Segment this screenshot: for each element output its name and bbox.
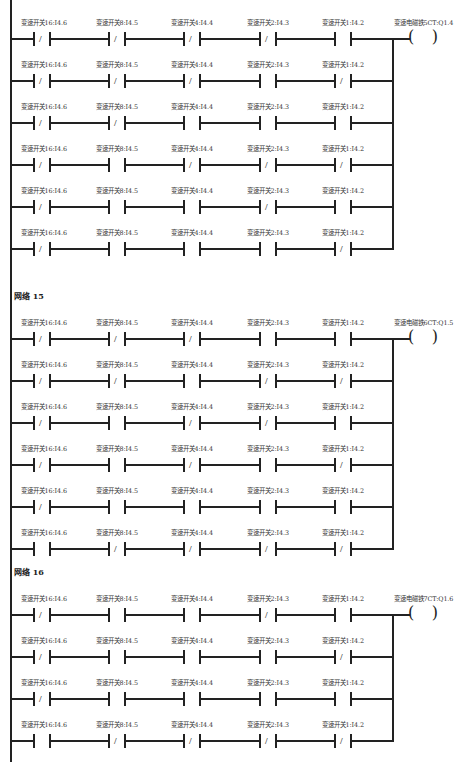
normally-open-contact-icon bbox=[33, 734, 51, 748]
normally-open-contact-icon bbox=[334, 416, 352, 430]
normally-closed-contact-icon: / bbox=[334, 650, 352, 664]
contact-label: 变速开关16:I4.6 bbox=[21, 360, 67, 369]
contact-label: 变速开关16:I4.6 bbox=[21, 402, 67, 411]
normally-open-contact-icon bbox=[259, 692, 277, 706]
normally-closed-contact-icon: / bbox=[259, 542, 277, 556]
normally-closed-contact-icon: / bbox=[33, 692, 51, 706]
normally-open-contact-icon bbox=[334, 200, 352, 214]
normally-closed-contact-icon: / bbox=[33, 200, 51, 214]
normally-closed-contact-icon: / bbox=[259, 734, 277, 748]
contact-label: 变速开关1:I4.2 bbox=[322, 594, 364, 603]
contact-label: 变速开关8:I4.5 bbox=[96, 402, 138, 411]
contact-label: 变速开关2:I4.3 bbox=[247, 228, 289, 237]
normally-closed-contact-icon: / bbox=[183, 158, 201, 172]
contact-label: 变速开关8:I4.5 bbox=[96, 678, 138, 687]
normally-open-contact-icon bbox=[183, 242, 201, 256]
coil-label: 变速电磁铁7CT:Q1.6 bbox=[394, 594, 453, 603]
contact-label: 变速开关2:I4.3 bbox=[247, 360, 289, 369]
normally-open-contact-icon bbox=[108, 608, 126, 622]
contact-label: 变速开关4:I4.4 bbox=[171, 102, 213, 111]
contact-label: 变速开关16:I4.6 bbox=[21, 720, 67, 729]
contact-label: 变速开关4:I4.4 bbox=[171, 360, 213, 369]
contact-label: 变速开关16:I4.6 bbox=[21, 594, 67, 603]
normally-open-contact-icon bbox=[259, 74, 277, 88]
normally-open-contact-icon bbox=[108, 242, 126, 256]
contact-label: 变速开关4:I4.4 bbox=[171, 444, 213, 453]
output-bus bbox=[392, 338, 394, 550]
normally-closed-contact-icon: / bbox=[334, 542, 352, 556]
normally-closed-contact-icon: / bbox=[33, 116, 51, 130]
normally-closed-contact-icon: / bbox=[33, 500, 51, 514]
contact-label: 变速开关1:I4.2 bbox=[322, 528, 364, 537]
normally-open-contact-icon bbox=[334, 500, 352, 514]
contact-label: 变速开关4:I4.4 bbox=[171, 636, 213, 645]
contact-label: 变速开关2:I4.3 bbox=[247, 318, 289, 327]
coil-label: 变速电磁铁6CT:Q1.5 bbox=[394, 318, 453, 327]
contact-label: 变速开关2:I4.3 bbox=[247, 528, 289, 537]
normally-open-contact-icon bbox=[183, 608, 201, 622]
network-title: 网络 15 bbox=[14, 290, 44, 301]
normally-closed-contact-icon: / bbox=[334, 74, 352, 88]
contact-label: 变速开关2:I4.3 bbox=[247, 678, 289, 687]
normally-open-contact-icon bbox=[183, 692, 201, 706]
normally-open-contact-icon bbox=[33, 542, 51, 556]
contact-label: 变速开关8:I4.5 bbox=[96, 594, 138, 603]
contact-label: 变速开关2:I4.3 bbox=[247, 144, 289, 153]
normally-open-contact-icon bbox=[183, 374, 201, 388]
contact-label: 变速开关8:I4.5 bbox=[96, 528, 138, 537]
normally-closed-contact-icon: / bbox=[33, 650, 51, 664]
normally-open-contact-icon bbox=[259, 458, 277, 472]
contact-label: 变速开关1:I4.2 bbox=[322, 102, 364, 111]
normally-open-contact-icon bbox=[334, 32, 352, 46]
output-coil-icon: () bbox=[408, 30, 438, 48]
normally-open-contact-icon bbox=[183, 500, 201, 514]
contact-label: 变速开关4:I4.4 bbox=[171, 18, 213, 27]
contact-label: 变速开关16:I4.6 bbox=[21, 444, 67, 453]
normally-closed-contact-icon: / bbox=[183, 332, 201, 346]
contact-label: 变速开关2:I4.3 bbox=[247, 444, 289, 453]
contact-label: 变速开关16:I4.6 bbox=[21, 636, 67, 645]
contact-label: 变速开关1:I4.2 bbox=[322, 360, 364, 369]
normally-closed-contact-icon: / bbox=[33, 374, 51, 388]
normally-open-contact-icon bbox=[108, 650, 126, 664]
normally-open-contact-icon bbox=[108, 458, 126, 472]
contact-label: 变速开关1:I4.2 bbox=[322, 318, 364, 327]
normally-closed-contact-icon: / bbox=[108, 332, 126, 346]
contact-label: 变速开关8:I4.5 bbox=[96, 60, 138, 69]
normally-closed-contact-icon: / bbox=[33, 242, 51, 256]
contact-label: 变速开关8:I4.5 bbox=[96, 144, 138, 153]
contact-label: 变速开关8:I4.5 bbox=[96, 318, 138, 327]
contact-label: 变速开关2:I4.3 bbox=[247, 594, 289, 603]
contact-label: 变速开关1:I4.2 bbox=[322, 228, 364, 237]
normally-closed-contact-icon: / bbox=[259, 200, 277, 214]
normally-closed-contact-icon: / bbox=[334, 158, 352, 172]
normally-closed-contact-icon: / bbox=[108, 374, 126, 388]
contact-label: 变速开关8:I4.5 bbox=[96, 228, 138, 237]
contact-label: 变速开关2:I4.3 bbox=[247, 486, 289, 495]
output-coil-icon: () bbox=[408, 330, 438, 348]
contact-label: 变速开关8:I4.5 bbox=[96, 186, 138, 195]
normally-closed-contact-icon: / bbox=[33, 608, 51, 622]
output-bus bbox=[392, 38, 394, 250]
normally-closed-contact-icon: / bbox=[183, 734, 201, 748]
normally-open-contact-icon bbox=[259, 116, 277, 130]
normally-closed-contact-icon: / bbox=[334, 458, 352, 472]
contact-label: 变速开关2:I4.3 bbox=[247, 18, 289, 27]
normally-closed-contact-icon: / bbox=[108, 74, 126, 88]
contact-label: 变速开关16:I4.6 bbox=[21, 678, 67, 687]
normally-open-contact-icon bbox=[108, 158, 126, 172]
contact-label: 变速开关1:I4.2 bbox=[322, 720, 364, 729]
contact-label: 变速开关4:I4.4 bbox=[171, 402, 213, 411]
normally-open-contact-icon bbox=[108, 200, 126, 214]
contact-label: 变速开关4:I4.4 bbox=[171, 678, 213, 687]
normally-closed-contact-icon: / bbox=[259, 32, 277, 46]
contact-label: 变速开关1:I4.2 bbox=[322, 144, 364, 153]
contact-label: 变速开关8:I4.5 bbox=[96, 486, 138, 495]
normally-open-contact-icon bbox=[259, 332, 277, 346]
contact-label: 变速开关16:I4.6 bbox=[21, 228, 67, 237]
contact-label: 变速开关16:I4.6 bbox=[21, 18, 67, 27]
normally-closed-contact-icon: / bbox=[334, 242, 352, 256]
contact-label: 变速开关2:I4.3 bbox=[247, 186, 289, 195]
normally-closed-contact-icon: / bbox=[183, 32, 201, 46]
contact-label: 变速开关4:I4.4 bbox=[171, 720, 213, 729]
